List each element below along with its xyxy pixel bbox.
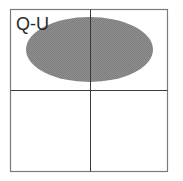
quadrant-diagram: Q-U [0,0,183,181]
quadrant-label: Q-U [16,14,49,34]
